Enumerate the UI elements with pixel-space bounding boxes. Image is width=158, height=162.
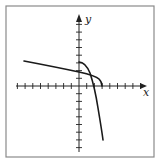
x-axis-label: x xyxy=(143,86,150,99)
y-axis-label: y xyxy=(84,13,92,26)
curve-steep xyxy=(79,62,103,140)
y-axis-arrow-icon xyxy=(76,14,82,22)
graph-frame xyxy=(6,6,154,157)
function-graph: y x xyxy=(0,0,158,162)
